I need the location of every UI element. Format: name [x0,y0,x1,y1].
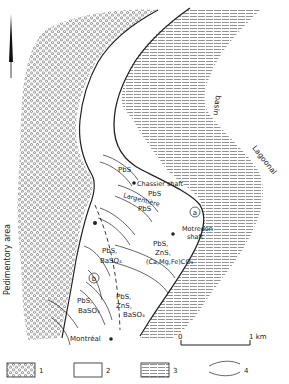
montreal-label: Montréal [70,335,101,343]
legend-swatch-4a [209,361,240,366]
junction-marker [93,221,97,225]
mineral-pbs-mid: PbS [148,190,162,198]
legend-number-2: 2 [106,367,110,375]
basin-label: basin [211,95,223,116]
scale-bar: 0 1 km [178,333,267,345]
legend-swatch-1 [7,363,35,377]
pedimentary-area-label: Pedimentory area [3,224,12,295]
zone-a-mineral-line3: (Ca,Mg,Fe)CO₃ [146,258,193,266]
zone-b-label: b [92,275,97,283]
zone-b-left-line1: PbS, [77,297,92,305]
zone-b-upper-line2: BaSO₄ [100,257,122,265]
legend-swatch-3 [141,363,169,377]
motredon-shaft-marker [171,232,175,236]
mineral-pbs-low: PbS [138,205,152,213]
zone-a-mineral-line1: PbS, [153,240,168,248]
north-arrow-icon [9,14,13,78]
legend-swatch-2 [74,363,102,377]
zone-a-label: a [193,209,197,217]
zone-b-right-line1: PbS, [116,293,131,301]
chassier-shaft-marker [132,181,136,185]
chassier-shaft-label: Chassier shaft [137,180,184,188]
scale-end-label: 1 km [249,333,267,341]
legend-number-1: 1 [39,367,43,375]
zone-b-right-line2: ZnS, [116,302,132,310]
zone-b-left-line2: BaSO₄ [78,307,100,315]
motredon-label-line2: shaft [187,233,204,241]
zone-b-right-line3: BaSO₄ [123,311,145,319]
legend-number-4: 4 [244,367,249,375]
zone-a-mineral-line2: ZnS, [155,249,171,257]
mineral-pbs-top: PbS [118,166,132,174]
scale-start-label: 0 [178,333,182,341]
geological-map: Pedimentory area basin Lagoonal Chassier… [0,0,289,384]
legend: 1 2 3 4 [7,361,249,377]
montreal-marker [109,337,113,341]
zone-b-upper-line1: PbS, [102,247,117,255]
legend-number-3: 3 [173,367,177,375]
motredon-label-line1: Motredon [182,225,213,233]
legend-swatch-4b [209,372,240,376]
